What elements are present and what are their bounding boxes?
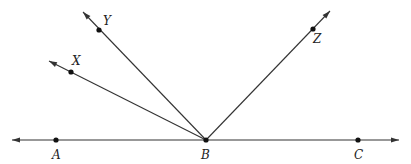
label-c: C — [354, 148, 363, 162]
arrowhead-icon — [391, 137, 399, 142]
point-y — [96, 27, 101, 32]
ray-BY — [83, 12, 206, 140]
label-y: Y — [103, 14, 112, 28]
point-a — [53, 137, 58, 142]
angle-rays-diagram: BACXYZ — [0, 0, 411, 164]
point-z — [310, 26, 315, 31]
label-z: Z — [312, 32, 322, 46]
point-c — [355, 137, 360, 142]
label-a: A — [51, 148, 61, 162]
arrowhead-icon — [49, 61, 57, 67]
arrowhead-icon — [12, 137, 20, 142]
point-x — [68, 69, 73, 74]
label-b: B — [200, 148, 210, 162]
rays — [12, 11, 399, 143]
point-b — [203, 137, 208, 142]
label-x: X — [71, 54, 81, 68]
